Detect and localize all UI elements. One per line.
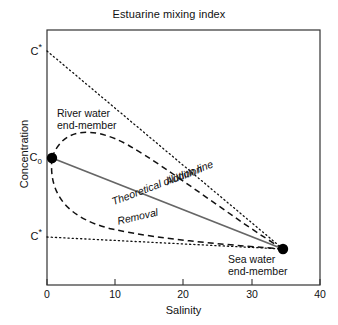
upper-conservative-mixing-line — [47, 51, 283, 249]
river-water-end-member-point — [47, 153, 57, 163]
x-axis-ticks — [47, 279, 320, 285]
theoretical-dilution-line — [52, 158, 283, 249]
annotation-river-water-end-member: River water end-member — [57, 108, 117, 131]
sea-water-end-member-point — [278, 244, 288, 254]
estuarine-mixing-index-figure: Estuarine mixing index Concentration Sal… — [0, 0, 338, 325]
annotation-sea-water-end-member: Sea water end-member — [228, 254, 288, 277]
lower-conservative-mixing-line — [47, 237, 283, 249]
addition-curve — [52, 132, 283, 249]
